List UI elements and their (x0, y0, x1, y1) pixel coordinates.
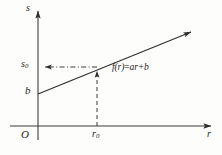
origin-label: O (21, 129, 29, 140)
equation-label: f(r)=ar+b (112, 63, 149, 73)
figure-canvas: s r O s0 b r0 f(r)=ar+b (0, 0, 222, 155)
r0-label: r0 (92, 129, 99, 140)
intercept-label: b (25, 85, 31, 96)
x-axis-label: r (207, 129, 211, 139)
equation-arg: (r) (115, 62, 125, 72)
y-axis-label: s (26, 3, 30, 13)
r0-label-sub: 0 (96, 132, 99, 139)
linear-function-diagram (0, 0, 222, 155)
s0-label-sub: 0 (25, 62, 28, 69)
equation-rhs: ar+b (130, 62, 149, 72)
s0-label: s0 (21, 59, 28, 70)
